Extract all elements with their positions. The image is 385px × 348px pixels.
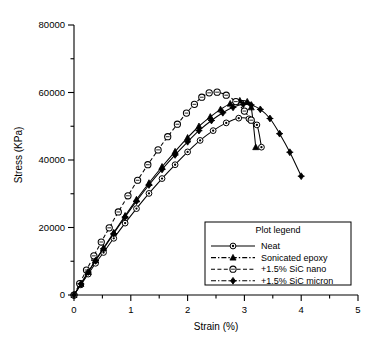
y-tick-label: 80000 [39, 19, 65, 30]
data-point [210, 128, 216, 134]
marker-dot-center [260, 146, 262, 148]
data-point [259, 144, 265, 150]
marker-dot-center [199, 139, 201, 141]
data-point [236, 115, 242, 121]
data-point [159, 176, 165, 182]
legend-title: Plot legend [255, 225, 300, 235]
data-point [146, 191, 152, 197]
legend-entry-label: Sonicated epoxy [261, 253, 328, 263]
legend-entry-label: +1.5% SiC nano [261, 264, 326, 274]
chart-canvas: 020000400006000080000012345 Plot legendN… [0, 0, 385, 348]
legend-entry-label: +1.5% SiC micron [261, 276, 333, 286]
data-point [135, 177, 141, 183]
chart-background [0, 0, 385, 348]
data-point [233, 99, 239, 105]
marker-dot-center [225, 122, 227, 124]
y-tick-label: 20000 [39, 222, 65, 233]
data-point [155, 147, 161, 153]
y-axis-title: Stress (KPa) [13, 127, 24, 184]
data-point [145, 162, 151, 168]
x-tick-label: 3 [242, 304, 247, 315]
data-point [223, 120, 229, 126]
data-point [206, 90, 212, 96]
marker-dot-center [232, 245, 234, 247]
data-point [106, 225, 112, 231]
marker-dot-center [238, 117, 240, 119]
data-point [172, 162, 178, 168]
marker-dot-center [186, 151, 188, 153]
data-point [98, 239, 104, 245]
y-tick-label: 0 [60, 289, 65, 300]
y-tick-label: 60000 [39, 87, 65, 98]
marker-dot-center [124, 222, 126, 224]
data-point [248, 117, 254, 123]
legend-sample-marker [230, 266, 236, 272]
x-tick-label: 0 [71, 304, 76, 315]
plot-legend[interactable]: Plot legendNeatSonicated epoxy+1.5% SiC … [205, 222, 351, 286]
x-tick-label: 4 [299, 304, 304, 315]
x-tick-label: 5 [355, 304, 360, 315]
y-tick-label: 40000 [39, 154, 65, 165]
marker-dot-center [174, 164, 176, 166]
marker-dot-center [161, 177, 163, 179]
data-point [254, 122, 260, 128]
marker-dot-center [256, 124, 258, 126]
data-point [125, 193, 131, 199]
x-axis-title: Strain (%) [194, 321, 238, 332]
marker-dot-center [148, 192, 150, 194]
x-tick-label: 1 [128, 304, 133, 315]
data-point [115, 209, 121, 215]
marker-dot-center [212, 129, 214, 131]
data-point [191, 101, 197, 107]
data-point [199, 94, 205, 100]
stress-strain-chart-figure: 020000400006000080000012345 Plot legendN… [0, 0, 385, 348]
x-tick-label: 2 [185, 304, 190, 315]
data-point [214, 89, 220, 95]
legend-entry-label: Neat [261, 241, 281, 251]
marker-dot-center [135, 207, 137, 209]
data-point [197, 138, 203, 144]
legend-sample-marker [230, 243, 236, 249]
data-point [134, 206, 140, 212]
data-point [165, 134, 171, 140]
data-point [241, 108, 247, 114]
data-point [183, 110, 189, 116]
data-point [185, 149, 191, 155]
data-point [223, 92, 229, 98]
data-point [174, 121, 180, 127]
